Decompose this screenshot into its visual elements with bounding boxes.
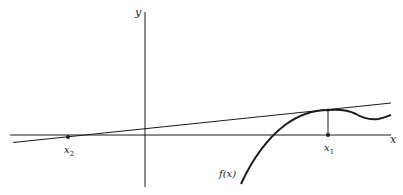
x1-label: x1 [324,142,334,156]
x2-label: x2 [64,144,74,158]
x1-tangency-point [327,109,330,112]
curve-label: f(x) [218,168,236,179]
function-curve [241,110,391,184]
newton-method-diagram: y x f(x) x1 x2 [0,0,403,195]
x1-point [326,133,330,137]
y-axis-label: y [134,6,142,19]
x2-point [66,135,70,139]
x-axis-label: x [390,133,397,146]
